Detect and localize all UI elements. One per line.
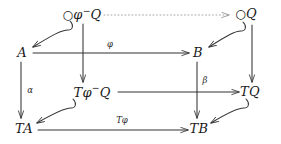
- edge-hook-to-ta: [37, 99, 75, 123]
- diagram-arrows-canvas: circ-q --> A --> B --> B --> T-phi-minus…: [0, 0, 281, 144]
- commutative-diagram: circ-q --> A --> B --> B --> T-phi-minus…: [0, 0, 281, 144]
- arrow-label-beta: β: [203, 76, 208, 85]
- node-a: A: [17, 46, 27, 59]
- node-circ-q: ○Q: [235, 7, 257, 20]
- node-t-phi-minus-q: Tφ−Q: [73, 83, 110, 98]
- arrow-label-alpha: α: [27, 86, 33, 95]
- node-tb: TB: [190, 122, 209, 135]
- edge-hook-to-tb: [211, 99, 248, 123]
- edge-hook-to-a: [33, 21, 72, 47]
- node-circ-phi-minus-q: ○φ−Q: [63, 6, 102, 22]
- node-ta: TA: [15, 122, 33, 135]
- node-b: B: [193, 46, 203, 59]
- arrow-label-t-phi: Tφ: [116, 116, 128, 125]
- node-tq: TQ: [240, 85, 260, 98]
- edge-hook-to-b: [209, 22, 245, 47]
- arrow-label-phi: φ: [107, 40, 113, 49]
